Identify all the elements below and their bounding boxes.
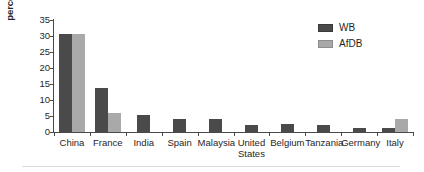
bar-wb-france: [95, 88, 108, 132]
bar-group-bars: [162, 20, 198, 132]
x-axis-label: India: [126, 137, 162, 148]
x-axis-label: Tanzania: [305, 137, 341, 148]
bar-group: [234, 20, 270, 132]
bar-wb-italy: [382, 128, 395, 132]
x-axis-tick-mark: [162, 132, 163, 136]
x-axis-label: Spain: [162, 137, 198, 148]
y-axis-tick-label: 20: [39, 63, 50, 73]
bar-group-bars: [234, 20, 270, 132]
legend-swatch-wb-icon: [318, 24, 333, 32]
y-axis-tick-label: 30: [39, 31, 50, 41]
bar-group: [269, 20, 305, 132]
x-axis-tick-mark: [413, 132, 414, 136]
bar-afdb-france: [108, 113, 121, 132]
x-axis-tick-mark: [198, 132, 199, 136]
bar-wb-germany: [353, 128, 366, 132]
x-axis-tick-mark: [377, 132, 378, 136]
bar-group: [126, 20, 162, 132]
x-axis-label: Germany: [341, 137, 377, 148]
bar-group: [377, 20, 413, 132]
x-axis-label: France: [90, 137, 126, 148]
y-axis-tick-label: 35: [39, 15, 50, 25]
bar-group-bars: [90, 20, 126, 132]
bar-group-bars: [54, 20, 90, 132]
bar-group: [54, 20, 90, 132]
bar-wb-spain: [173, 119, 186, 132]
x-axis-tick-mark: [90, 132, 91, 136]
bar-group-bars: [198, 20, 234, 132]
legend-label-wb: WB: [339, 22, 355, 33]
bar-wb-china: [59, 34, 72, 132]
bar-afdb-china: [72, 34, 85, 132]
legend-swatch-afdb-icon: [318, 40, 333, 48]
bar-chart-figure: percentage of total value 05101520253035…: [0, 0, 424, 172]
bar-group-bars: [377, 20, 413, 132]
x-axis-label: Italy: [377, 137, 413, 148]
y-axis-tick-label: 15: [39, 79, 50, 89]
y-axis-tick-label: 10: [39, 95, 50, 105]
bar-wb-malaysia: [209, 119, 222, 132]
chart-legend: WB AfDB: [318, 21, 362, 50]
bar-group-bars: [126, 20, 162, 132]
footer-rule: [22, 166, 400, 167]
legend-item-wb: WB: [318, 21, 362, 34]
bar-group: [198, 20, 234, 132]
bar-wb-tanzania: [317, 125, 330, 132]
y-axis-tick-label: 25: [39, 47, 50, 57]
x-axis-label: Malaysia: [198, 137, 234, 148]
x-axis-label: China: [54, 137, 90, 148]
y-axis-title: percentage of total value: [2, 0, 18, 32]
x-axis-tick-mark: [305, 132, 306, 136]
bar-wb-belgium: [281, 124, 294, 132]
x-axis-tick-mark: [234, 132, 235, 136]
x-axis-label: United States: [234, 137, 270, 159]
bar-wb-united-states: [245, 125, 258, 132]
x-axis-tick-mark: [269, 132, 270, 136]
bar-group: [162, 20, 198, 132]
legend-item-afdb: AfDB: [318, 37, 362, 50]
bar-afdb-italy: [395, 119, 408, 132]
x-axis-tick-mark: [54, 132, 55, 136]
bar-group-bars: [269, 20, 305, 132]
bar-wb-india: [137, 115, 150, 132]
x-axis-label: Belgium: [269, 137, 305, 148]
x-axis-tick-mark: [341, 132, 342, 136]
x-axis-tick-mark: [126, 132, 127, 136]
legend-label-afdb: AfDB: [339, 38, 362, 49]
bar-group: [90, 20, 126, 132]
